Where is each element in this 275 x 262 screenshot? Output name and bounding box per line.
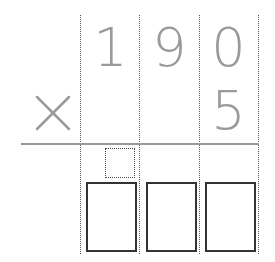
multiply-sign-icon — [33, 93, 73, 133]
multiplier-ones: 5 — [199, 84, 258, 138]
result-rule — [21, 143, 259, 145]
multiplicand-hundreds: 1 — [81, 21, 140, 75]
column-divider — [258, 15, 259, 254]
carry-input-box[interactable] — [105, 148, 135, 178]
answer-box-ones[interactable] — [205, 182, 256, 252]
answer-box-hundreds[interactable] — [86, 182, 137, 252]
multiplicand-tens: 9 — [140, 21, 199, 75]
multiplicand-ones: 0 — [199, 21, 258, 75]
answer-box-tens[interactable] — [146, 182, 197, 252]
